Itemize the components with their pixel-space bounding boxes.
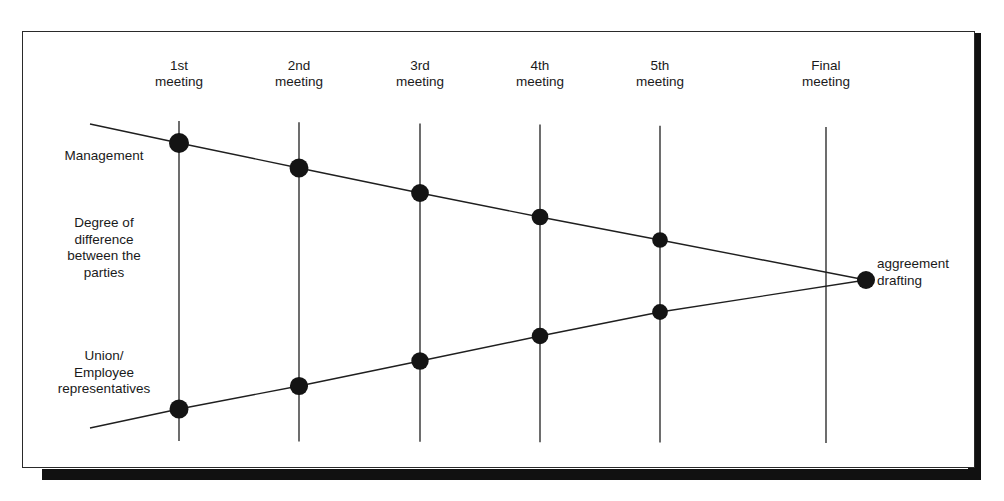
column-header-meeting-2: 2nd meeting: [244, 58, 354, 90]
label-degree-of-difference: Degree of difference between the parties: [48, 215, 160, 281]
column-header-meeting-3: 3rd meeting: [365, 58, 475, 90]
figure-root: 1st meeting2nd meeting3rd meeting4th mee…: [0, 0, 1004, 501]
column-header-meeting-final: Final meeting: [771, 58, 881, 90]
label-agreement-drafting: aggreement drafting: [877, 256, 993, 289]
page-shadow-bottom: [42, 469, 981, 480]
column-header-meeting-5: 5th meeting: [605, 58, 715, 90]
label-management: Management: [52, 148, 156, 165]
diagram-frame: [22, 31, 975, 468]
column-header-meeting-1: 1st meeting: [124, 58, 234, 90]
label-union-employee-representatives: Union/ Employee representatives: [38, 348, 170, 398]
column-header-meeting-4: 4th meeting: [485, 58, 595, 90]
